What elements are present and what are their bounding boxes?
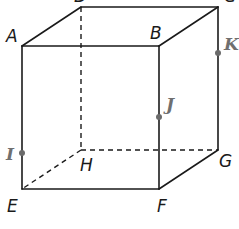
edge-FG bbox=[159, 150, 218, 189]
vertex-label-C: C bbox=[224, 0, 236, 6]
point-label-I: I bbox=[5, 144, 15, 164]
edge-HE bbox=[22, 150, 81, 189]
vertex-label-H: H bbox=[80, 155, 93, 175]
vertex-label-F: F bbox=[157, 196, 167, 216]
point-I-marker bbox=[19, 150, 25, 156]
vertex-label-D: D bbox=[74, 0, 87, 6]
vertex-label-G: G bbox=[219, 151, 232, 171]
cube-svg: D C A B H G E F I J K bbox=[0, 0, 239, 229]
edge-BC bbox=[159, 7, 218, 46]
vertex-label-A: A bbox=[5, 26, 18, 46]
vertex-label-E: E bbox=[7, 196, 18, 216]
point-K-marker bbox=[215, 50, 221, 56]
vertex-label-B: B bbox=[150, 23, 162, 43]
point-label-J: J bbox=[163, 94, 175, 114]
point-J-marker bbox=[156, 114, 162, 120]
point-label-K: K bbox=[223, 34, 239, 54]
edge-AD bbox=[22, 7, 81, 46]
cube-diagram: D C A B H G E F I J K bbox=[0, 0, 239, 229]
